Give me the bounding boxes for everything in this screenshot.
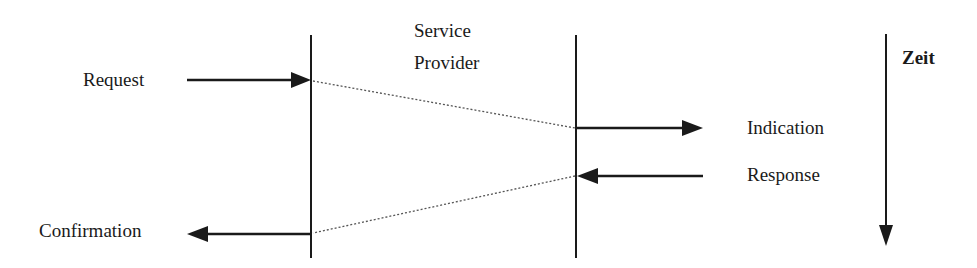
service-provider-label-line2: Provider [414, 53, 479, 72]
response-arrow [577, 168, 703, 184]
confirmation-label: Confirmation [39, 221, 141, 240]
diagram-graphics [0, 0, 977, 268]
request-indication-dotted-line [313, 81, 575, 128]
confirmation-arrow [187, 226, 311, 242]
response-confirmation-dotted-line [313, 176, 575, 233]
time-axis-arrow [879, 34, 893, 246]
request-arrow [187, 72, 311, 88]
request-label: Request [83, 70, 144, 89]
time-axis-label: Zeit [902, 48, 935, 67]
response-label: Response [747, 165, 820, 184]
sequence-diagram: Request Service Provider Indication Resp… [0, 0, 977, 268]
indication-arrow [576, 120, 703, 136]
service-provider-label-line1: Service [414, 21, 471, 40]
indication-label: Indication [747, 118, 824, 137]
